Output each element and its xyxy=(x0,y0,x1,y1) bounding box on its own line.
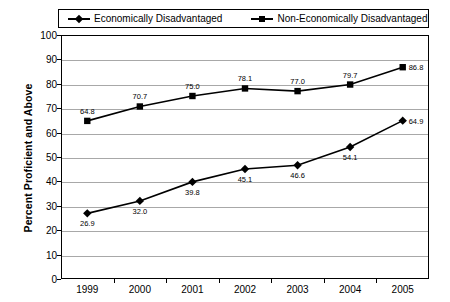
y-axis-tick-label: 60 xyxy=(17,127,57,138)
y-axis-tick-label: 10 xyxy=(17,249,57,260)
data-point-label: 70.7 xyxy=(133,92,148,101)
data-point-square xyxy=(400,64,406,70)
x-axis-tick-mark xyxy=(219,279,220,283)
y-axis-tick-label: 90 xyxy=(17,54,57,65)
y-axis-tick-label: 100 xyxy=(17,30,57,41)
data-point-diamond xyxy=(241,165,249,173)
data-point-label: 64.8 xyxy=(80,107,95,116)
data-point-diamond xyxy=(136,197,144,205)
chart-legend: Economically Disadvantaged Non-Economica… xyxy=(58,9,429,28)
y-axis-tick-label: 80 xyxy=(17,78,57,89)
data-point-square xyxy=(242,85,248,91)
x-axis-tick-mark xyxy=(376,279,377,283)
data-point-label: 32.0 xyxy=(133,207,148,216)
data-point-diamond xyxy=(83,209,91,217)
x-axis-tick-label: 2003 xyxy=(268,284,328,295)
legend-label-economically-disadvantaged: Economically Disadvantaged xyxy=(94,14,222,24)
data-point-label: 39.8 xyxy=(185,188,200,197)
data-point-label: 78.1 xyxy=(238,74,253,83)
data-point-square xyxy=(189,93,195,99)
x-axis-tick-label: 2001 xyxy=(162,284,222,295)
data-point-square xyxy=(347,81,353,87)
data-point-diamond xyxy=(293,161,301,169)
x-axis-tick-label: 1999 xyxy=(57,284,117,295)
data-point-label: 77.0 xyxy=(290,77,305,86)
data-point-label: 64.9 xyxy=(409,116,424,125)
data-point-label: 79.7 xyxy=(343,71,358,80)
y-axis-tick-label: 50 xyxy=(17,152,57,163)
legend-label-non-economically-disadvantaged: Non-Economically Disadvantaged xyxy=(277,14,427,24)
x-axis-tick-mark xyxy=(271,279,272,283)
y-axis-tick-mark xyxy=(57,279,61,280)
y-axis-tick-label: 20 xyxy=(17,225,57,236)
x-axis-tick-label: 2004 xyxy=(320,284,380,295)
legend-item-economically-disadvantaged: Economically Disadvantaged xyxy=(68,13,222,24)
x-axis-tick-mark xyxy=(166,279,167,283)
y-axis-tick-label: 70 xyxy=(17,103,57,114)
series-layer xyxy=(61,35,429,279)
data-point-square xyxy=(84,118,90,124)
data-point-diamond xyxy=(399,116,407,124)
data-point-label: 54.1 xyxy=(343,153,358,162)
x-axis-tick-label: 2005 xyxy=(373,284,433,295)
x-axis-tick-label: 2000 xyxy=(110,284,170,295)
data-point-diamond xyxy=(188,178,196,186)
y-axis-tick-label: 40 xyxy=(17,176,57,187)
square-marker-icon xyxy=(251,13,273,24)
legend-item-non-economically-disadvantaged: Non-Economically Disadvantaged xyxy=(251,13,427,24)
data-point-label: 46.6 xyxy=(290,171,305,180)
data-point-label: 45.1 xyxy=(238,175,253,184)
data-point-label: 86.8 xyxy=(409,63,424,72)
x-axis-tick-label: 2002 xyxy=(215,284,275,295)
diamond-marker-icon xyxy=(68,13,90,24)
chart-container: Economically Disadvantaged Non-Economica… xyxy=(0,0,450,302)
data-point-square xyxy=(137,103,143,109)
y-axis-tick-label: 30 xyxy=(17,200,57,211)
x-axis-tick-mark xyxy=(114,279,115,283)
data-point-label: 26.9 xyxy=(80,219,95,228)
data-point-diamond xyxy=(346,143,354,151)
data-point-label: 75.0 xyxy=(185,82,200,91)
y-axis-tick-label: 0 xyxy=(17,274,57,285)
x-axis-tick-mark xyxy=(324,279,325,283)
data-point-square xyxy=(294,88,300,94)
